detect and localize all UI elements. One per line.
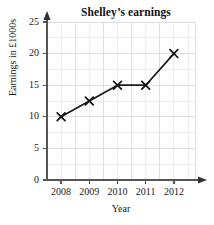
y-tick-label-0: 0 <box>13 174 39 185</box>
y-axis-label: Earnings in £1000s <box>7 0 18 118</box>
x-axis-arrow-icon <box>198 176 207 183</box>
chart-container: Shelley’s earnings <box>0 0 214 225</box>
y-tick-label-5: 5 <box>13 142 39 153</box>
axis-lines <box>47 18 200 180</box>
grid-minor-horizontal <box>47 38 195 164</box>
x-tick-label-2012: 2012 <box>157 186 191 197</box>
y-axis-arrow-icon <box>43 11 50 20</box>
x-axis-label: Year <box>47 203 195 214</box>
